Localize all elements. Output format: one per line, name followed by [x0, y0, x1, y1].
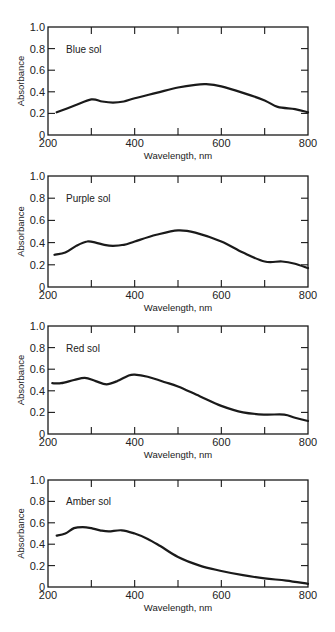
y-tick-label: 0.4: [30, 538, 45, 550]
x-tick-label: 400: [125, 137, 143, 149]
x-tick-label: 600: [212, 436, 230, 448]
x-tick-label: 600: [212, 289, 230, 301]
panel-label: Purple sol: [66, 193, 110, 204]
x-tick-label: 400: [125, 589, 143, 601]
y-tick-label: 0.6: [30, 214, 45, 226]
x-axis-title: Wavelength, nm: [144, 302, 212, 313]
y-tick-label: 0: [39, 281, 45, 293]
y-tick-label: 0.8: [30, 495, 45, 507]
y-tick-label: 0.6: [30, 363, 45, 375]
y-tick-label: 1.0: [30, 170, 45, 182]
y-tick-label: 0: [39, 428, 45, 440]
y-tick-label: 0.2: [30, 406, 45, 418]
y-tick-label: 0.8: [30, 192, 45, 204]
y-tick-label: 1.0: [30, 21, 45, 33]
panel-label: Red sol: [66, 343, 100, 354]
y-tick-label: 0: [39, 581, 45, 593]
y-tick-label: 0.4: [30, 237, 45, 249]
y-axis-title: Absorbance: [15, 56, 26, 107]
y-tick-label: 0.8: [30, 342, 45, 354]
y-tick-label: 0.2: [30, 259, 45, 271]
y-tick-label: 0: [39, 129, 45, 141]
x-tick-label: 800: [299, 289, 317, 301]
charts-svg: 20040060080000.20.40.60.81.0Wavelength, …: [0, 0, 335, 632]
y-tick-label: 1.0: [30, 320, 45, 332]
y-tick-label: 0.4: [30, 86, 45, 98]
chart-panel-purple-sol: 20040060080000.20.40.60.81.0Wavelength, …: [15, 170, 317, 313]
x-tick-label: 400: [125, 436, 143, 448]
absorbance-curve: [57, 527, 308, 584]
chart-panel-red-sol: 20040060080000.20.40.60.81.0Wavelength, …: [15, 320, 317, 460]
chart-panel-amber-sol: 20040060080000.20.40.60.81.0Wavelength, …: [15, 474, 317, 613]
x-tick-label: 600: [212, 137, 230, 149]
x-axis-title: Wavelength, nm: [144, 150, 212, 161]
absorbance-curve: [55, 230, 309, 268]
y-axis-title: Absorbance: [15, 355, 26, 406]
panel-label: Amber sol: [66, 496, 111, 507]
absorbance-curve: [52, 375, 308, 421]
panel-label: Blue sol: [66, 44, 102, 55]
x-axis-title: Wavelength, nm: [144, 602, 212, 613]
absorbance-spectra-figure: 20040060080000.20.40.60.81.0Wavelength, …: [0, 0, 335, 632]
y-tick-label: 1.0: [30, 474, 45, 486]
y-tick-label: 0.4: [30, 385, 45, 397]
x-tick-label: 800: [299, 589, 317, 601]
y-tick-label: 0.2: [30, 560, 45, 572]
x-tick-label: 600: [212, 589, 230, 601]
y-tick-label: 0.2: [30, 107, 45, 119]
absorbance-curve: [57, 84, 308, 112]
x-tick-label: 800: [299, 436, 317, 448]
y-tick-label: 0.6: [30, 64, 45, 76]
x-tick-label: 800: [299, 137, 317, 149]
x-tick-label: 400: [125, 289, 143, 301]
chart-panel-blue-sol: 20040060080000.20.40.60.81.0Wavelength, …: [15, 21, 317, 161]
x-axis-title: Wavelength, nm: [144, 449, 212, 460]
y-axis-title: Absorbance: [15, 508, 26, 559]
y-tick-label: 0.8: [30, 43, 45, 55]
y-axis-title: Absorbance: [15, 206, 26, 257]
y-tick-label: 0.6: [30, 517, 45, 529]
